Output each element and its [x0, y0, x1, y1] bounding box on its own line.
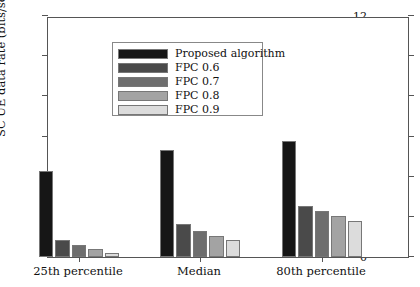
- legend-swatch-icon-1: [118, 63, 168, 73]
- x-tick-label-0: 25th percentile: [18, 264, 138, 278]
- bar-80th-percentile-fpc-0-7: [315, 211, 330, 257]
- bar-25th-percentile-fpc-0-6: [55, 240, 70, 257]
- bar-median-fpc-0-6: [176, 224, 191, 257]
- bar-80th-percentile-fpc-0-9: [348, 221, 363, 257]
- legend-label-2: FPC 0.7: [175, 76, 219, 87]
- bar-80th-percentile-fpc-0-8: [331, 216, 346, 257]
- bar-25th-percentile-fpc-0-9: [105, 253, 120, 257]
- bar-median-fpc-0-8: [209, 236, 224, 257]
- x-tick-1: [200, 257, 201, 262]
- y-axis-label: SC UE data rate (bits/sec/Hz): [0, 0, 8, 137]
- legend-item-proposed-algorithm: Proposed algorithm: [118, 47, 257, 60]
- bar-median-fpc-0-9: [226, 240, 241, 257]
- legend-item-fpc-0-8: FPC 0.8: [118, 89, 257, 102]
- legend-swatch-icon-0: [118, 49, 168, 59]
- legend-label-3: FPC 0.8: [175, 90, 219, 101]
- legend-swatch-icon-3: [118, 91, 168, 101]
- bar-median-fpc-0-7: [193, 231, 208, 257]
- x-tick-label-1: Median: [139, 264, 259, 278]
- y-tick-right-6: [408, 136, 414, 137]
- legend-swatch-icon-4: [118, 105, 168, 115]
- legend-item-fpc-0-9: FPC 0.9: [118, 103, 257, 116]
- legend-label-4: FPC 0.9: [175, 104, 219, 115]
- y-tick-right-10: [408, 55, 414, 56]
- x-tick-0: [79, 257, 80, 262]
- legend-swatch-icon-2: [118, 77, 168, 87]
- y-tick-8: [42, 95, 48, 96]
- legend: Proposed algorithmFPC 0.6FPC 0.7FPC 0.8F…: [112, 42, 263, 116]
- y-tick-right-0: [408, 256, 414, 257]
- x-tick-label-2: 80th percentile: [261, 264, 381, 278]
- x-tick-2: [322, 257, 323, 262]
- bar-80th-percentile-proposed-algorithm: [282, 141, 297, 257]
- bar-median-proposed-algorithm: [160, 150, 175, 257]
- legend-label-0: Proposed algorithm: [175, 48, 285, 59]
- bar-25th-percentile-fpc-0-8: [88, 249, 103, 257]
- bar-25th-percentile-fpc-0-7: [72, 245, 87, 257]
- y-tick-right-2: [408, 216, 414, 217]
- y-tick-6: [42, 136, 48, 137]
- y-tick-right-12: [408, 15, 414, 16]
- y-tick-12: [42, 15, 48, 16]
- y-tick-right-4: [408, 176, 414, 177]
- legend-item-fpc-0-6: FPC 0.6: [118, 61, 257, 74]
- plot-area: Proposed algorithmFPC 0.6FPC 0.7FPC 0.8F…: [47, 17, 409, 258]
- bar-25th-percentile-proposed-algorithm: [39, 171, 54, 257]
- bar-80th-percentile-fpc-0-6: [298, 206, 313, 257]
- legend-item-fpc-0-7: FPC 0.7: [118, 75, 257, 88]
- y-tick-right-8: [408, 95, 414, 96]
- legend-label-1: FPC 0.6: [175, 62, 219, 73]
- figure: SC UE data rate (bits/sec/Hz) 024681012 …: [0, 0, 420, 287]
- y-tick-10: [42, 55, 48, 56]
